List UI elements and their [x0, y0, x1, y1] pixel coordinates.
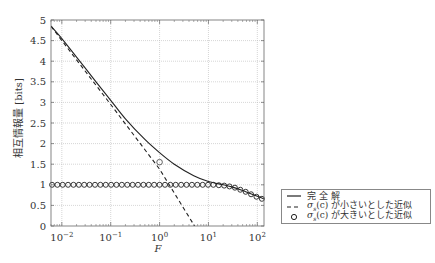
data-point: [184, 182, 189, 187]
y-tick-label: 2: [40, 138, 46, 149]
solid-series-line: [51, 26, 264, 199]
x-tick-labels: 10−210−1100101102: [50, 231, 266, 243]
dashed-series-line: [51, 26, 195, 226]
x-tick-label: 10−2: [50, 231, 73, 243]
circle-marker-icon: [286, 212, 302, 222]
legend-label: σs(c) が大きいとした近似: [307, 210, 412, 224]
y-tick-label: 1: [40, 179, 46, 190]
y-tick-label: 3.5: [30, 76, 46, 87]
x-tick-label: 101: [200, 231, 217, 243]
solid-line-icon: [286, 191, 302, 201]
legend: 完 全 解 σs(c) が小さいとした近似 σs(c) が大きいとした近似: [281, 189, 431, 224]
x-axis-label: F: [154, 243, 163, 254]
data-point: [114, 182, 119, 187]
x-tick-label: 100: [151, 231, 168, 243]
grid-lines: [51, 20, 264, 226]
y-tick-label: 0: [40, 221, 46, 232]
dashed-line-icon: [286, 202, 302, 212]
data-point: [60, 182, 65, 187]
data-point: [130, 182, 135, 187]
y-tick-label: 0.5: [30, 200, 46, 211]
data-point: [200, 182, 205, 187]
data-point: [98, 182, 103, 187]
y-tick-label: 5: [40, 15, 46, 26]
legend-item-large-approx: σs(c) が大きいとした近似: [286, 212, 430, 223]
x-tick-label: 102: [249, 231, 266, 243]
y-tick-label: 3: [40, 97, 46, 108]
y-tick-label: 4: [40, 56, 46, 67]
y-tick-label: 1.5: [30, 159, 46, 170]
x-tick-label: 10−1: [99, 231, 122, 243]
y-tick-label: 4.5: [30, 35, 46, 46]
y-axis-label: 相互情報量 [bits]: [12, 78, 24, 158]
data-series: [50, 26, 265, 226]
y-tick-labels: 00.511.522.533.544.55: [30, 15, 46, 232]
y-tick-label: 2.5: [30, 118, 46, 129]
